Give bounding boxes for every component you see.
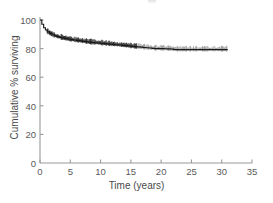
- survival-curve-figure: 05101520253035 020406080100 Time (years)…: [0, 0, 273, 203]
- x-tick-label: 30: [216, 166, 227, 177]
- y-tick-label: 100: [20, 15, 36, 26]
- y-tick-label: 60: [25, 72, 36, 83]
- x-tick-label: 35: [247, 166, 258, 177]
- y-tick-label: 0: [31, 158, 36, 169]
- x-tick-label: 15: [126, 166, 137, 177]
- x-tick-label: 5: [68, 166, 73, 177]
- y-tick-label: 80: [25, 43, 36, 54]
- x-tick-label: 25: [186, 166, 197, 177]
- censoring-tick-marks: [47, 29, 227, 52]
- y-tick-label: 20: [25, 129, 36, 140]
- x-tick-label: 10: [95, 166, 106, 177]
- y-axis-label: Cumulative % surviving: [9, 13, 20, 163]
- x-axis-label: Time (years): [0, 180, 273, 191]
- x-tick-label: 20: [156, 166, 167, 177]
- x-tick-label: 0: [37, 166, 42, 177]
- y-tick-label: 40: [25, 100, 36, 111]
